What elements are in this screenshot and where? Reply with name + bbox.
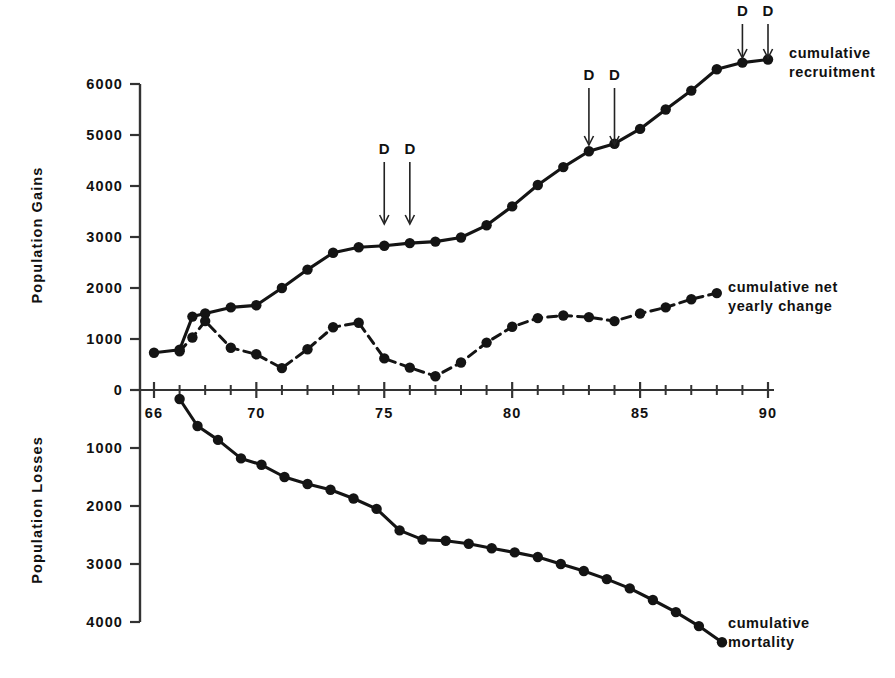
data-point bbox=[686, 294, 696, 304]
annotation-label-D: D bbox=[737, 2, 748, 19]
data-point bbox=[609, 316, 619, 326]
data-point bbox=[510, 547, 520, 557]
data-point bbox=[187, 311, 197, 321]
data-point bbox=[584, 312, 594, 322]
data-point bbox=[251, 300, 261, 310]
label-cumulative-mortality-line2: mortality bbox=[728, 634, 795, 650]
data-point bbox=[602, 574, 612, 584]
data-point bbox=[354, 242, 364, 252]
x-tick-label: 75 bbox=[375, 405, 393, 421]
data-point bbox=[481, 220, 491, 230]
data-point bbox=[328, 322, 338, 332]
y-tick-label-bottom: 3000 bbox=[86, 556, 123, 572]
data-point bbox=[256, 460, 266, 470]
data-point bbox=[712, 288, 722, 298]
data-point bbox=[430, 236, 440, 246]
label-cumulative-recruitment-line1: cumulative bbox=[789, 45, 871, 61]
data-point bbox=[533, 552, 543, 562]
data-point bbox=[661, 302, 671, 312]
data-point bbox=[661, 104, 671, 114]
data-point bbox=[379, 241, 389, 251]
data-point bbox=[348, 493, 358, 503]
y-tick-label-top: 3000 bbox=[86, 229, 123, 245]
x-tick-label: 80 bbox=[503, 405, 521, 421]
y-tick-label-bottom: 4000 bbox=[86, 614, 123, 630]
data-point bbox=[251, 349, 261, 359]
data-point bbox=[625, 583, 635, 593]
data-point bbox=[226, 343, 236, 353]
data-point bbox=[394, 525, 404, 535]
data-point bbox=[533, 180, 543, 190]
y-tick-label-top: 5000 bbox=[86, 127, 123, 143]
data-point bbox=[712, 64, 722, 74]
data-point bbox=[277, 363, 287, 373]
annotation-label-D: D bbox=[763, 2, 774, 19]
annotation-label-D: D bbox=[609, 66, 620, 83]
data-point bbox=[174, 346, 184, 356]
chart-figure: 0100020003000400050006000100020003000400… bbox=[0, 0, 895, 678]
y-tick-label-bottom: 2000 bbox=[86, 498, 123, 514]
data-point bbox=[579, 566, 589, 576]
data-point bbox=[174, 394, 184, 404]
y-axis-title-bottom: Population Losses bbox=[29, 436, 45, 584]
data-point bbox=[507, 201, 517, 211]
data-point bbox=[302, 479, 312, 489]
annotation-label-D: D bbox=[404, 140, 415, 157]
data-point bbox=[200, 316, 210, 326]
data-point bbox=[464, 539, 474, 549]
data-point bbox=[417, 534, 427, 544]
population-dynamics-chart: 0100020003000400050006000100020003000400… bbox=[0, 0, 895, 678]
data-point bbox=[213, 435, 223, 445]
data-point bbox=[371, 504, 381, 514]
data-point bbox=[226, 302, 236, 312]
x-tick-label: 85 bbox=[631, 405, 649, 421]
data-point bbox=[277, 283, 287, 293]
data-point bbox=[487, 543, 497, 553]
data-point bbox=[430, 371, 440, 381]
data-point bbox=[302, 344, 312, 354]
data-point bbox=[192, 421, 202, 431]
data-point bbox=[481, 337, 491, 347]
data-point bbox=[328, 248, 338, 258]
data-point bbox=[379, 353, 389, 363]
label-cumulative-net-yearly-change-line1: cumulative net bbox=[728, 279, 838, 295]
data-point bbox=[441, 536, 451, 546]
x-tick-label: 70 bbox=[247, 405, 265, 421]
y-axis-title-top: Population Gains bbox=[29, 167, 45, 304]
y-tick-label-top: 6000 bbox=[86, 76, 123, 92]
label-cumulative-mortality-line1: cumulative bbox=[728, 615, 810, 631]
annotation-label-D: D bbox=[379, 140, 390, 157]
data-point bbox=[648, 595, 658, 605]
x-tick-label: 90 bbox=[759, 405, 777, 421]
y-tick-label-top: 2000 bbox=[86, 280, 123, 296]
data-point bbox=[686, 85, 696, 95]
data-point bbox=[694, 621, 704, 631]
data-point bbox=[671, 607, 681, 617]
data-point bbox=[405, 362, 415, 372]
y-tick-label-bottom: 1000 bbox=[86, 440, 123, 456]
data-point bbox=[187, 332, 197, 342]
data-point bbox=[279, 472, 289, 482]
data-point bbox=[558, 162, 568, 172]
x-tick-label: 66 bbox=[145, 405, 163, 421]
data-point bbox=[456, 357, 466, 367]
data-point bbox=[558, 310, 568, 320]
data-point bbox=[456, 232, 466, 242]
y-tick-label-top: 0 bbox=[114, 382, 123, 398]
label-cumulative-recruitment-line2: recruitment bbox=[789, 64, 875, 80]
data-point bbox=[635, 124, 645, 134]
data-point bbox=[405, 238, 415, 248]
data-point bbox=[533, 313, 543, 323]
data-point bbox=[149, 348, 159, 358]
data-point bbox=[717, 637, 727, 647]
data-point bbox=[507, 322, 517, 332]
data-point bbox=[236, 453, 246, 463]
data-point bbox=[302, 264, 312, 274]
y-tick-label-top: 4000 bbox=[86, 178, 123, 194]
data-point bbox=[556, 559, 566, 569]
annotation-label-D: D bbox=[583, 66, 594, 83]
data-point bbox=[354, 318, 364, 328]
data-point bbox=[325, 485, 335, 495]
data-point bbox=[635, 308, 645, 318]
data-point bbox=[584, 146, 594, 156]
